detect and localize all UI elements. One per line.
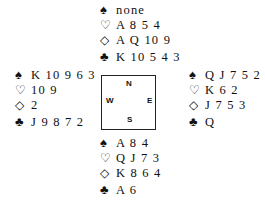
heart-icon: ♡	[100, 18, 116, 34]
north-spades-cards: none	[116, 3, 145, 17]
spade-icon: ♠	[15, 67, 31, 83]
club-icon: ♣	[100, 49, 116, 65]
south-clubs: ♣A 6	[100, 182, 162, 198]
north-diamonds: ◇A Q 10 9	[100, 33, 181, 49]
diamond-icon: ◇	[100, 166, 116, 182]
east-clubs-cards: Q	[205, 115, 215, 129]
heart-icon: ♡	[189, 83, 205, 99]
spade-icon: ♠	[100, 2, 116, 18]
diamond-icon: ◇	[15, 98, 31, 114]
north-spades: ♠none	[100, 2, 181, 18]
east-hearts-cards: K 6 2	[205, 83, 239, 97]
east-diamonds-cards: J 7 5 3	[205, 98, 246, 112]
east-diamonds: ◇J 7 5 3	[189, 98, 261, 114]
west-diamonds-cards: 2	[31, 98, 38, 112]
compass-east-label: E	[147, 96, 152, 105]
west-hearts: ♡10 9	[15, 83, 96, 99]
spade-icon: ♠	[189, 67, 205, 83]
heart-icon: ♡	[100, 151, 116, 167]
club-icon: ♣	[100, 182, 116, 198]
west-hand: ♠K 10 9 6 3 ♡10 9 ◇2 ♣J 9 8 7 2	[15, 67, 96, 129]
north-diamonds-cards: A Q 10 9	[116, 33, 171, 47]
compass-north-label: N	[126, 79, 132, 88]
spade-icon: ♠	[100, 135, 116, 151]
south-spades-cards: A 8 4	[116, 136, 149, 150]
east-hand: ♠Q J 7 5 2 ♡K 6 2 ◇J 7 5 3 ♣Q	[189, 67, 261, 129]
south-diamonds: ◇K 8 6 4	[100, 166, 162, 182]
north-hand: ♠none ♡A 8 5 4 ◇A Q 10 9 ♣K 10 5 4 3	[100, 2, 181, 64]
compass-south-label: S	[127, 115, 132, 124]
east-clubs: ♣Q	[189, 114, 261, 130]
south-spades: ♠A 8 4	[100, 135, 162, 151]
west-spades: ♠K 10 9 6 3	[15, 67, 96, 83]
club-icon: ♣	[15, 114, 31, 130]
compass-box: N W E S	[101, 75, 156, 130]
south-hearts: ♡Q J 7 3	[100, 151, 162, 167]
north-hearts-cards: A 8 5 4	[116, 18, 161, 32]
west-clubs-cards: J 9 8 7 2	[31, 115, 84, 129]
heart-icon: ♡	[15, 83, 31, 99]
diamond-icon: ◇	[100, 33, 116, 49]
south-hand: ♠A 8 4 ♡Q J 7 3 ◇K 8 6 4 ♣A 6	[100, 135, 162, 197]
club-icon: ♣	[189, 114, 205, 130]
compass-west-label: W	[106, 96, 114, 105]
south-clubs-cards: A 6	[116, 183, 137, 197]
west-diamonds: ◇2	[15, 98, 96, 114]
north-clubs: ♣K 10 5 4 3	[100, 49, 181, 65]
east-hearts: ♡K 6 2	[189, 83, 261, 99]
east-spades-cards: Q J 7 5 2	[205, 68, 261, 82]
west-spades-cards: K 10 9 6 3	[31, 68, 96, 82]
west-hearts-cards: 10 9	[31, 83, 58, 97]
west-clubs: ♣J 9 8 7 2	[15, 114, 96, 130]
diamond-icon: ◇	[189, 98, 205, 114]
north-hearts: ♡A 8 5 4	[100, 18, 181, 34]
south-diamonds-cards: K 8 6 4	[116, 166, 162, 180]
east-spades: ♠Q J 7 5 2	[189, 67, 261, 83]
north-clubs-cards: K 10 5 4 3	[116, 50, 181, 64]
south-hearts-cards: Q J 7 3	[116, 151, 160, 165]
